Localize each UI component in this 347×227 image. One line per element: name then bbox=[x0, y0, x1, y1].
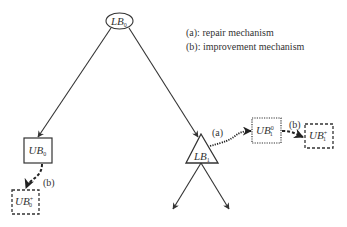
label-b-ub0: (b) bbox=[43, 177, 55, 189]
node-ub0: UB0 bbox=[24, 138, 52, 163]
label-b-ub1: (b) bbox=[289, 119, 301, 131]
edge-lb1-right bbox=[201, 163, 229, 209]
edge-lb1-left bbox=[173, 163, 201, 209]
label-a: (a) bbox=[212, 127, 223, 139]
svg-text:UB+0: UB+0 bbox=[15, 195, 34, 208]
edge-root-lb1 bbox=[129, 28, 198, 137]
svg-text:UB01: UB01 bbox=[256, 124, 274, 137]
node-lb1: LB1 bbox=[186, 134, 218, 163]
edge-ub0-improve bbox=[26, 164, 42, 188]
edge-improve-ub1 bbox=[282, 131, 303, 137]
tree-diagram: LB0 UB0 (b) UB+0 LB1 (a) UB01 (b) UB+1 bbox=[0, 0, 347, 227]
node-ub1-0: UB01 bbox=[252, 118, 281, 143]
node-ub1-plus: UB+1 bbox=[305, 124, 333, 148]
node-lb0: LB0 bbox=[106, 13, 133, 29]
svg-text:UB+1: UB+1 bbox=[309, 129, 328, 142]
edge-root-ub0 bbox=[38, 28, 111, 137]
node-ub0-plus: UB+0 bbox=[12, 190, 39, 214]
